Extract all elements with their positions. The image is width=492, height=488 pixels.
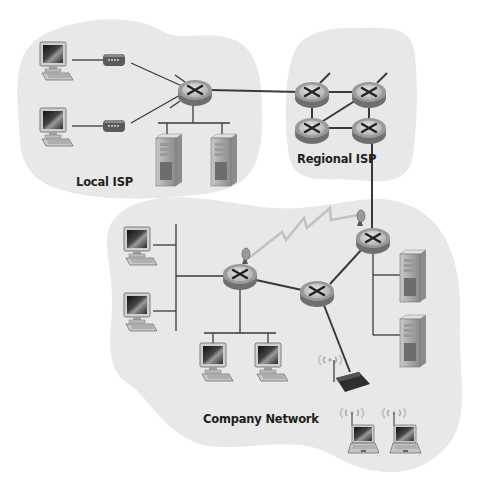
local-isp-router-icon[interactable] xyxy=(178,80,212,106)
company-router-1-icon[interactable] xyxy=(223,264,257,290)
local-server-2-icon[interactable] xyxy=(211,134,237,186)
company-router-2-icon[interactable] xyxy=(300,281,334,307)
company-network-label: Company Network xyxy=(203,412,319,426)
company-router-3-icon[interactable] xyxy=(356,228,390,254)
local-server-1-icon[interactable] xyxy=(156,134,182,186)
regional-router-3-icon[interactable] xyxy=(295,118,329,144)
regional-isp-label: Regional ISP xyxy=(297,152,376,166)
company-server-2-icon[interactable] xyxy=(400,315,426,367)
regional-router-1-icon[interactable] xyxy=(295,82,329,108)
company-server-1-icon[interactable] xyxy=(400,250,426,302)
local-modem-1-icon[interactable] xyxy=(103,54,125,66)
regional-router-4-icon[interactable] xyxy=(352,118,386,144)
local-modem-2-icon[interactable] xyxy=(103,120,125,132)
regional-router-2-icon[interactable] xyxy=(352,82,386,108)
local-isp-label: Local ISP xyxy=(76,175,133,189)
network-diagram: Local ISP Regional ISP Company Network xyxy=(0,0,492,488)
